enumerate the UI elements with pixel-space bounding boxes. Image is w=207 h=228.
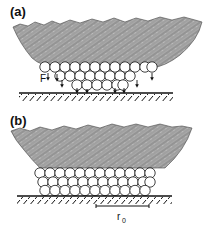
scale-bar	[96, 204, 149, 208]
ground-hatch-a	[19, 94, 173, 101]
panel-b-label: (b)	[10, 113, 27, 128]
panel-a: (a) F	[10, 4, 202, 101]
ground-hatch-b	[17, 197, 172, 204]
particle-a	[13, 17, 202, 68]
scale-label: r	[117, 211, 121, 222]
panel-a-label: (a)	[10, 4, 26, 19]
panel-b: (b) r 0	[10, 113, 192, 224]
figure-canvas: (a) F	[0, 0, 207, 228]
force-label: F	[40, 73, 46, 84]
particle-b	[11, 124, 192, 168]
scale-subscript: 0	[122, 217, 126, 224]
spheres-b	[35, 168, 155, 196]
